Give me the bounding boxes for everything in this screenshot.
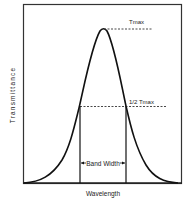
arrow-left-icon [81,162,84,165]
arrow-right-icon [122,162,125,165]
y-axis-label: Transmittance [9,67,16,124]
plot-frame [24,5,182,184]
tmax-label: Tmax [129,19,144,25]
half-tmax-label: 1/2 Tmax [129,99,154,105]
band-width-label: Band Width [86,160,120,167]
transmittance-diagram: Tmax 1/2 Tmax Band Width Wavelength Tran… [0,0,191,207]
x-axis-label: Wavelength [86,190,120,198]
